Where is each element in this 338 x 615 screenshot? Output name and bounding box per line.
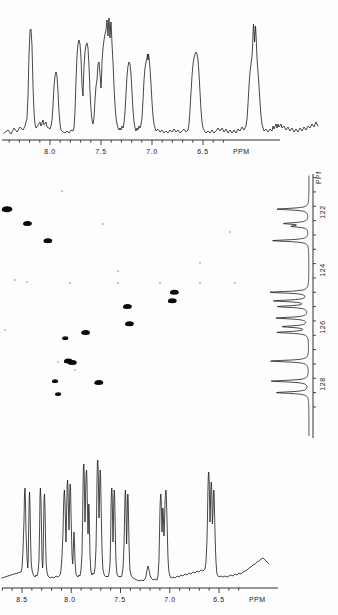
noise-speck	[61, 190, 63, 191]
axis-tick-label: 7.0	[164, 596, 176, 603]
noise-speck	[102, 223, 104, 224]
bottom-axis-ppm-label: PPM	[249, 596, 265, 603]
carbon-axis-ppm-label: PPM	[315, 172, 322, 184]
cross-peak	[52, 379, 58, 383]
bottom-spectrum-trace-group	[2, 460, 269, 581]
axis-tick-label: 8.5	[16, 596, 28, 603]
bottom-axis-tick-labels: 8.58.07.57.06.5	[16, 596, 225, 603]
bottom-axis-ticks	[2, 588, 238, 593]
top-axis-ppm-label: PPM	[233, 148, 249, 155]
noise-speck	[14, 279, 16, 280]
carbon-spectrum-trace	[270, 176, 309, 436]
cross-peak	[168, 298, 177, 303]
top-axis-ticks	[9, 140, 223, 145]
top-spectrum-trace-group	[4, 18, 318, 134]
carbon-axis-ticks	[313, 178, 316, 407]
noise-speck-group	[4, 190, 236, 370]
noise-speck	[229, 231, 231, 232]
bottom-spectrum-trace	[2, 460, 269, 581]
nmr-figure: 8.07.57.06.5 PPM 122124126128 PPM	[0, 0, 338, 615]
noise-speck	[74, 369, 76, 370]
axis-tick-label: 6.5	[213, 596, 225, 603]
cross-peak-tail	[43, 240, 47, 243]
cross-peak	[23, 221, 32, 226]
noise-speck	[159, 282, 161, 283]
noise-speck	[117, 282, 119, 283]
axis-tick-label: 7.5	[114, 596, 126, 603]
noise-speck	[199, 282, 201, 283]
cross-peak-tail	[123, 306, 127, 309]
bottom-spectrum-svg: 8.58.07.57.06.5 PPM	[0, 450, 338, 615]
cross-peak	[94, 380, 103, 385]
carbon-trace-panel: 122124126128 PPM	[255, 172, 338, 440]
carbon-axis-tick-label: 122	[319, 205, 326, 218]
noise-speck	[199, 262, 201, 263]
cross-peak-tail	[2, 208, 7, 211]
cross-peak	[62, 336, 68, 340]
cross-peak	[2, 206, 13, 212]
axis-tick-label: 8.0	[64, 596, 76, 603]
carbon-axis-tick-labels: 122124126128	[319, 205, 326, 390]
cross-peak-tail	[125, 323, 129, 326]
cross-peak	[81, 330, 90, 335]
carbon-axis-tick-label: 126	[319, 320, 326, 333]
cross-peak	[170, 290, 179, 295]
top-spectrum-trace	[4, 18, 318, 134]
noise-speck	[234, 282, 236, 283]
carbon-trace-svg: 122124126128 PPM	[255, 172, 338, 440]
cross-peak	[55, 392, 61, 396]
axis-tick-label: 7.5	[95, 148, 107, 155]
top-proton-spectrum-panel: 8.07.57.06.5 PPM	[0, 0, 338, 165]
cross-peak-tail	[55, 393, 58, 395]
cross-peak	[123, 304, 132, 309]
noise-speck	[4, 329, 6, 330]
cross-peak-tail	[81, 332, 85, 335]
cross-peak-tail	[170, 292, 174, 295]
cross-peak-tail	[62, 338, 65, 340]
carbon-trace-group	[270, 176, 309, 436]
cross-peak-group	[2, 206, 179, 396]
cross-peak	[125, 321, 134, 326]
cross-peak-tail	[64, 360, 68, 363]
axis-tick-label: 8.0	[44, 148, 56, 155]
noise-speck	[69, 282, 71, 283]
noise-speck	[57, 361, 59, 362]
top-axis-tick-labels: 8.07.57.06.5	[44, 148, 209, 155]
cross-peak	[43, 238, 52, 243]
axis-tick-label: 6.5	[197, 148, 209, 155]
cross-peak-tail	[52, 381, 55, 383]
cross-peak-tail	[23, 223, 27, 226]
cross-peak-tail	[168, 300, 172, 303]
noise-speck	[117, 270, 119, 271]
cross-peak-tail	[94, 382, 98, 385]
axis-tick-label: 7.0	[146, 148, 158, 155]
top-spectrum-svg: 8.07.57.06.5 PPM	[0, 0, 338, 165]
bottom-proton-spectrum-panel: 8.58.07.57.06.5 PPM	[0, 450, 338, 615]
noise-speck	[26, 281, 28, 282]
cross-peak-tail	[68, 362, 72, 365]
carbon-axis-tick-label: 128	[319, 377, 326, 390]
carbon-axis-tick-label: 124	[319, 263, 326, 276]
